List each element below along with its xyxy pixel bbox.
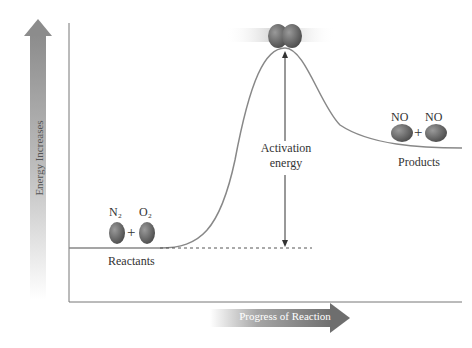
- transition-state-molecule: [225, 24, 335, 48]
- reactants-label: Reactants: [108, 254, 155, 269]
- products-plus: +: [414, 124, 422, 141]
- o2-molecule: [139, 222, 155, 244]
- no-formula-1: NO: [391, 110, 408, 125]
- y-axis-label: Energy Increases: [33, 120, 45, 195]
- activation-energy-line1: Activation: [260, 141, 312, 156]
- no-molecule-2: [425, 124, 447, 142]
- no-molecule-1: [391, 124, 413, 142]
- y-axis-label-box: Energy Increases: [30, 98, 48, 218]
- products-label: Products: [398, 155, 440, 170]
- o2-formula: O₂: [139, 205, 152, 220]
- x-axis-label: Progress of Reaction: [230, 310, 340, 322]
- energy-diagram-canvas: [0, 0, 472, 348]
- n2-formula: N₂: [109, 205, 122, 220]
- activation-energy-line2: energy: [260, 156, 312, 171]
- n2-molecule: [109, 222, 125, 244]
- activation-energy-label: Activation energy: [260, 141, 312, 171]
- no-formula-2: NO: [425, 110, 442, 125]
- reactants-plus: +: [127, 224, 135, 241]
